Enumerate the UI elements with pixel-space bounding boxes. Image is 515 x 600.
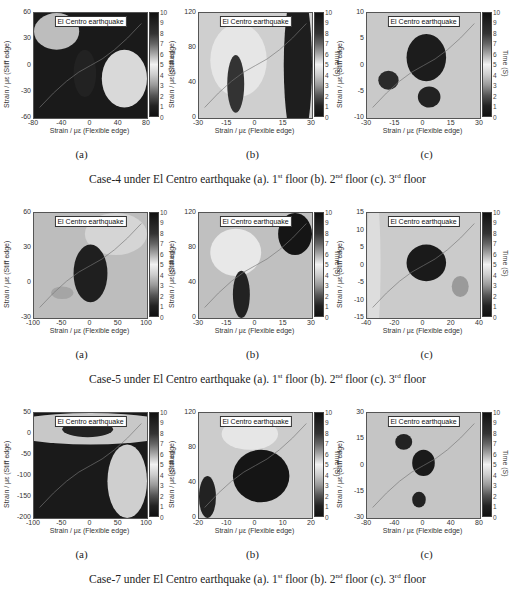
colorbar-tick-label: 7 <box>493 440 497 447</box>
caption-text: floor (b). 2 <box>282 573 335 585</box>
legend-label: El Centro earthquake <box>387 16 459 27</box>
colorbar-tick-label: 5 <box>160 461 164 468</box>
x-axis-label: Strain / με (Flexible edge) <box>195 127 315 134</box>
legend-label: El Centro earthquake <box>54 216 126 227</box>
y-tick-label: 10 <box>344 8 364 16</box>
colorbar-tick-label: 6 <box>493 51 497 58</box>
heatmap-image <box>367 413 480 518</box>
y-axis-label: Strain / με (Stiff edge) <box>168 241 175 308</box>
y-tick-label: 120 <box>176 208 196 216</box>
x-tick-label: 0 <box>78 319 102 327</box>
colorbar-tick-label: 10 <box>493 409 500 416</box>
x-tick-label: -30 <box>354 119 378 127</box>
x-tick-label: 40 <box>439 519 463 527</box>
x-axis-label: Strain / με (Flexible edge) <box>363 127 483 134</box>
caption-text: floor (c). 3 <box>342 173 394 185</box>
colorbar <box>149 12 159 117</box>
colorbar-tick-label: 6 <box>325 251 329 258</box>
colorbar-tick-label: 4 <box>493 472 497 479</box>
x-tick-label: 15 <box>271 319 295 327</box>
x-tick-label: -40 <box>49 119 73 127</box>
heatmap-image <box>367 213 480 318</box>
colorbar-label: Time (S) <box>502 50 509 77</box>
caption-text: floor <box>401 173 426 185</box>
x-tick-label: -20 <box>186 519 210 527</box>
colorbar-tick-label: 2 <box>493 93 497 100</box>
x-axis-label: Strain / με (Flexible edge) <box>30 327 150 334</box>
colorbar-tick-label: 2 <box>493 493 497 500</box>
y-axis-label: Strain / με (Stiff edge) <box>336 241 343 308</box>
heatmap-plot-area: El Centro earthquake <box>366 12 481 119</box>
y-tick-label: -5 <box>344 278 364 286</box>
x-tick-label: 80 <box>134 119 158 127</box>
y-axis-label: Strain / με (Stiff edge) <box>3 241 10 308</box>
heatmap-plot-area: El Centro earthquake <box>198 212 313 319</box>
y-tick-label: 0 <box>11 278 31 286</box>
x-axis-label: Strain / με (Flexible edge) <box>195 527 315 534</box>
colorbar-tick-label: 0 <box>325 314 329 321</box>
colorbar-tick-label: 5 <box>325 461 329 468</box>
colorbar-tick-label: 9 <box>493 419 497 426</box>
colorbar-tick-label: 8 <box>493 230 497 237</box>
y-tick-label: 0 <box>11 61 31 69</box>
colorbar-tick-label: 8 <box>493 430 497 437</box>
colorbar-tick-label: 3 <box>160 82 164 89</box>
colorbar-tick-label: 0 <box>160 314 164 321</box>
y-tick-label: -10 <box>344 296 364 304</box>
x-tick-label: -100 <box>21 519 45 527</box>
y-tick-label: 30 <box>11 34 31 42</box>
x-tick-label: 50 <box>106 519 130 527</box>
colorbar-tick-label: 6 <box>325 51 329 58</box>
colorbar-label: Time (S) <box>502 250 509 277</box>
caption-text: floor (b). 2 <box>282 173 335 185</box>
y-tick-label: 120 <box>176 8 196 16</box>
y-axis-label: Strain / με (Stiff edge) <box>168 441 175 508</box>
colorbar-tick-label: 0 <box>493 514 497 521</box>
colorbar-tick-label: 4 <box>160 272 164 279</box>
x-axis-label: Strain / με (Flexible edge) <box>30 527 150 534</box>
subfigure-label: (a) <box>67 548 97 560</box>
y-tick-label: 0 <box>344 61 364 69</box>
y-tick-label: 30 <box>344 408 364 416</box>
colorbar <box>482 412 492 517</box>
x-tick-label: -50 <box>49 519 73 527</box>
y-axis-label: Strain / με (Stiff edge) <box>3 441 10 508</box>
colorbar-tick-label: 9 <box>160 219 164 226</box>
subfigure-label: (b) <box>238 548 268 560</box>
y-tick-label: 15 <box>344 434 364 442</box>
subfigure-label: (c) <box>412 548 442 560</box>
colorbar-tick-label: 1 <box>160 503 164 510</box>
x-tick-label: 30 <box>467 119 491 127</box>
colorbar-tick-label: 4 <box>325 472 329 479</box>
colorbar-tick-label: 10 <box>325 409 332 416</box>
x-tick-label: -40 <box>382 519 406 527</box>
colorbar-tick-label: 3 <box>493 82 497 89</box>
heatmap-image <box>199 13 312 118</box>
y-tick-label: -30 <box>11 87 31 95</box>
colorbar-tick-label: 4 <box>160 72 164 79</box>
legend-label: El Centro earthquake <box>219 416 291 427</box>
heatmap-image <box>34 413 147 518</box>
x-tick-label: 20 <box>439 319 463 327</box>
colorbar-tick-label: 1 <box>160 103 164 110</box>
heatmap-panel-row3-col3: El Centro earthquake30150-15-30-80-40040… <box>333 400 503 540</box>
heatmap-panel-row1-col3: El Centro earthquake1050-5-10-30-1501530… <box>333 0 503 140</box>
y-tick-label: 10 <box>344 226 364 234</box>
colorbar-tick-label: 9 <box>325 419 329 426</box>
colorbar-tick-label: 7 <box>160 440 164 447</box>
colorbar-tick-label: 3 <box>325 482 329 489</box>
colorbar <box>314 12 324 117</box>
x-tick-label: 15 <box>271 119 295 127</box>
colorbar-tick-label: 0 <box>325 114 329 121</box>
colorbar-tick-label: 8 <box>493 30 497 37</box>
x-tick-label: 0 <box>411 319 435 327</box>
colorbar-tick-label: 6 <box>493 251 497 258</box>
row-caption: Case-7 under El Centro earthquake (a). 1… <box>0 572 515 585</box>
colorbar-tick-label: 8 <box>160 30 164 37</box>
y-tick-label: 40 <box>176 278 196 286</box>
colorbar <box>314 212 324 317</box>
subfigure-label: (b) <box>238 148 268 160</box>
colorbar-tick-label: 2 <box>160 493 164 500</box>
x-axis-label: Strain / με (Flexible edge) <box>30 127 150 134</box>
colorbar-tick-label: 3 <box>493 482 497 489</box>
